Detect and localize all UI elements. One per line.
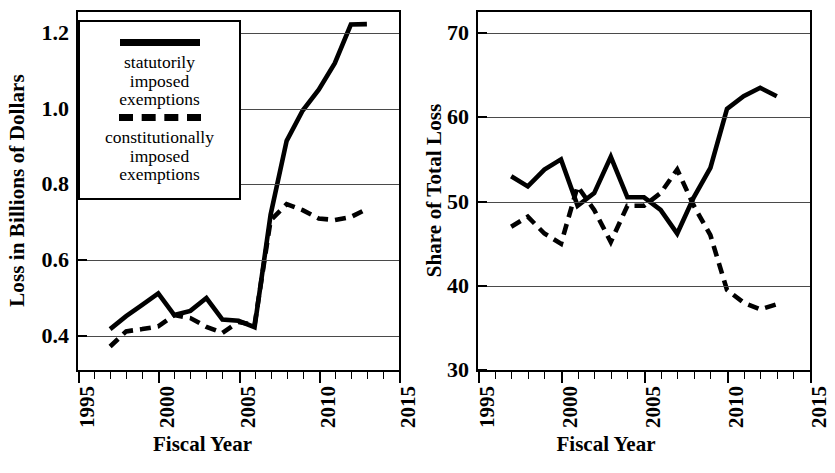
chart-panel-share-of-total-loss: Share of Total Loss 19952000200520102015…	[418, 0, 835, 473]
y-tick-label: 30	[447, 359, 478, 381]
y-axis-title-right: Share of Total Loss	[420, 0, 450, 380]
x-tick-label: 2000	[560, 386, 581, 428]
x-tick-label: 2015	[809, 386, 830, 428]
x-tick-major	[727, 370, 729, 383]
x-tick-minor	[710, 370, 711, 379]
series-lines-right	[478, 12, 814, 374]
series-line-statutory	[511, 88, 777, 234]
y-tick-label: 70	[447, 22, 478, 44]
gridline	[478, 33, 810, 34]
x-tick-major	[239, 370, 241, 383]
x-tick-minor	[206, 370, 207, 379]
x-tick-minor	[744, 370, 745, 379]
x-tick-major	[319, 370, 321, 383]
x-tick-label: 2010	[317, 386, 338, 428]
gridline	[478, 117, 810, 118]
x-tick-major	[399, 370, 401, 383]
x-tick-major	[561, 370, 563, 383]
y-tick-mark	[478, 201, 487, 203]
x-tick-minor	[255, 370, 256, 379]
legend-label-constitutional: constitutionally imposed exemptions	[105, 128, 214, 184]
x-tick-label: 1995	[77, 386, 98, 428]
x-tick-minor	[110, 370, 111, 379]
chart-panel-loss-billions: Loss in Billions of Dollars 199520002005…	[0, 0, 417, 473]
x-tick-minor	[544, 370, 545, 379]
plot-area-right: 19952000200520102015 3040506070	[476, 10, 812, 372]
x-tick-minor	[174, 370, 175, 379]
y-tick-mark	[78, 259, 87, 261]
x-tick-minor	[578, 370, 579, 379]
x-tick-minor	[383, 370, 384, 379]
x-tick-minor	[495, 370, 496, 379]
y-tick-mark	[478, 116, 487, 118]
legend-box: statutorily imposed exemptions constitut…	[78, 20, 241, 200]
x-tick-label: 2005	[237, 386, 258, 428]
y-tick-label: 0.6	[42, 249, 79, 271]
x-tick-label: 2010	[726, 386, 747, 428]
x-tick-minor	[661, 370, 662, 379]
x-axis-title-right: Fiscal Year	[438, 432, 774, 457]
x-tick-major	[810, 370, 812, 383]
x-tick-minor	[594, 370, 595, 379]
legend-label-statutory: statutorily imposed exemptions	[119, 53, 200, 109]
x-tick-minor	[303, 370, 304, 379]
x-tick-label: 2015	[398, 386, 419, 428]
y-tick-label: 0.8	[42, 173, 79, 195]
gridline	[78, 260, 399, 261]
x-tick-label: 1995	[477, 386, 498, 428]
y-tick-mark	[478, 32, 487, 34]
x-tick-minor	[271, 370, 272, 379]
y-tick-mark	[78, 335, 87, 337]
gridline	[478, 202, 810, 203]
x-tick-minor	[677, 370, 678, 379]
y-tick-label: 40	[447, 275, 478, 297]
x-tick-minor	[694, 370, 695, 379]
y-tick-label: 1.0	[42, 98, 79, 120]
x-tick-minor	[142, 370, 143, 379]
gridline	[478, 286, 810, 287]
x-tick-minor	[190, 370, 191, 379]
x-tick-minor	[760, 370, 761, 379]
x-tick-minor	[611, 370, 612, 379]
x-tick-major	[158, 370, 160, 383]
y-tick-label: 1.2	[42, 22, 79, 44]
x-tick-minor	[222, 370, 223, 379]
x-tick-minor	[335, 370, 336, 379]
x-tick-minor	[777, 370, 778, 379]
figure-two-panel-line-charts: Loss in Billions of Dollars 199520002005…	[0, 0, 835, 473]
x-axis-right: 19952000200520102015	[478, 370, 810, 384]
x-tick-minor	[511, 370, 512, 379]
x-axis-title-left: Fiscal Year	[40, 432, 365, 457]
y-axis-title-left: Loss in Billions of Dollars	[2, 0, 32, 380]
x-tick-minor	[793, 370, 794, 379]
y-tick-label: 50	[447, 191, 478, 213]
x-tick-label: 2005	[643, 386, 664, 428]
x-tick-label: 2000	[157, 386, 178, 428]
solid-line-swatch	[120, 39, 200, 46]
dashed-line-swatch	[119, 114, 201, 121]
x-tick-major	[644, 370, 646, 383]
x-tick-minor	[94, 370, 95, 379]
series-line-constitutional	[110, 204, 367, 346]
x-tick-minor	[287, 370, 288, 379]
x-tick-minor	[126, 370, 127, 379]
x-tick-minor	[367, 370, 368, 379]
gridline	[78, 336, 399, 337]
x-tick-minor	[528, 370, 529, 379]
x-tick-major	[478, 370, 480, 383]
x-tick-minor	[351, 370, 352, 379]
x-tick-minor	[627, 370, 628, 379]
series-line-constitutional	[511, 170, 777, 310]
y-tick-label: 0.4	[42, 325, 79, 347]
y-tick-label: 60	[447, 106, 478, 128]
y-tick-mark	[478, 369, 487, 371]
x-tick-major	[78, 370, 80, 383]
y-tick-mark	[478, 285, 487, 287]
x-axis-left: 19952000200520102015	[78, 370, 399, 384]
